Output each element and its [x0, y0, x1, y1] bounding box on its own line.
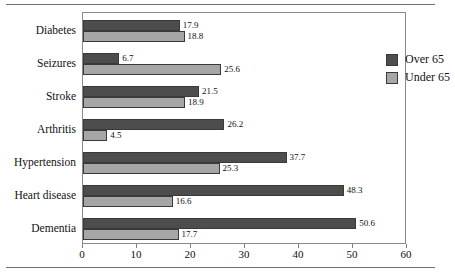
x-axis: 0102030405060	[82, 244, 406, 266]
bar-under-65	[83, 163, 220, 174]
bar-value-label: 6.7	[119, 53, 133, 64]
bar-value-label: 26.2	[224, 119, 243, 130]
bar-group: 17.918.8	[83, 20, 407, 42]
bar-value-label: 4.5	[107, 130, 121, 141]
bar-over-65	[83, 218, 356, 229]
category-label: Dementia	[0, 222, 76, 234]
bar-under-65	[83, 64, 221, 75]
bar-value-label: 25.6	[221, 64, 240, 75]
bar-under-65	[83, 97, 185, 108]
category-label: Seizures	[0, 57, 76, 69]
x-axis-tick-label: 40	[293, 248, 304, 261]
bar-over-65	[83, 86, 199, 97]
legend-label: Under 65	[405, 71, 450, 84]
bar-value-label: 48.3	[344, 185, 363, 196]
bar-over-65	[83, 20, 180, 31]
bar-value-label: 17.7	[179, 229, 198, 240]
x-axis-tick-label: 0	[79, 248, 85, 261]
bar-group: 26.24.5	[83, 119, 407, 141]
bar-under-65	[83, 130, 107, 141]
bar-group: 50.617.7	[83, 218, 407, 240]
x-axis-tick-label: 20	[185, 248, 196, 261]
legend-label: Over 65	[405, 53, 444, 66]
bar-value-label: 21.5	[199, 86, 218, 97]
bar-under-65	[83, 31, 185, 42]
chart-legend: Over 65Under 65	[386, 51, 455, 87]
bar-value-label: 50.6	[356, 218, 375, 229]
bar-value-label: 17.9	[180, 20, 199, 31]
plot-area: 17.918.86.725.621.518.926.24.537.725.348…	[82, 12, 406, 244]
category-label: Heart disease	[0, 189, 76, 201]
bar-over-65	[83, 152, 287, 163]
x-axis-tick-label: 50	[347, 248, 358, 261]
bar-group: 37.725.3	[83, 152, 407, 174]
category-label: Hypertension	[0, 156, 76, 168]
category-label: Arthritis	[0, 123, 76, 135]
bar-value-label: 16.6	[173, 196, 192, 207]
x-axis-tick-label: 60	[401, 248, 412, 261]
bar-value-label: 18.8	[185, 31, 204, 42]
top-divider-rule	[6, 4, 435, 5]
x-axis-tick-label: 10	[131, 248, 142, 261]
legend-item-under-65: Under 65	[386, 69, 455, 86]
bar-value-label: 37.7	[287, 152, 306, 163]
category-label: Diabetes	[0, 24, 76, 36]
bar-under-65	[83, 196, 173, 207]
bar-under-65	[83, 229, 179, 240]
legend-swatch-icon	[386, 54, 398, 66]
bar-group: 21.518.9	[83, 86, 407, 108]
bar-over-65	[83, 119, 224, 130]
bar-over-65	[83, 185, 344, 196]
category-label: Stroke	[0, 90, 76, 102]
legend-item-over-65: Over 65	[386, 51, 455, 68]
bottom-divider-rule	[6, 267, 435, 268]
bar-over-65	[83, 53, 119, 64]
bar-value-label: 25.3	[220, 163, 239, 174]
bar-group: 6.725.6	[83, 53, 407, 75]
x-axis-tick-label: 30	[239, 248, 250, 261]
category-axis: DiabetesSeizuresStrokeArthritisHypertens…	[0, 12, 76, 244]
legend-swatch-icon	[386, 72, 398, 84]
bar-group: 48.316.6	[83, 185, 407, 207]
bar-value-label: 18.9	[185, 97, 204, 108]
